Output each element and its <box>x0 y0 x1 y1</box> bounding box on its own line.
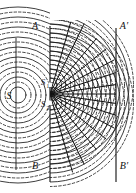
diagram-canvas: A B A′ B′ S S 1 S 2 <box>0 0 136 193</box>
label-barrier-top: A <box>31 20 39 31</box>
label-slit2-subscript: 2 <box>47 105 50 111</box>
label-source-S: S <box>7 90 12 101</box>
label-slit1-subscript: 1 <box>47 83 50 89</box>
interference-figure: A B A′ B′ S S 1 S 2 <box>0 0 136 193</box>
label-screen-top: A′ <box>119 20 129 31</box>
label-screen-bottom: B′ <box>120 160 129 171</box>
label-barrier-bottom: B <box>32 160 38 171</box>
